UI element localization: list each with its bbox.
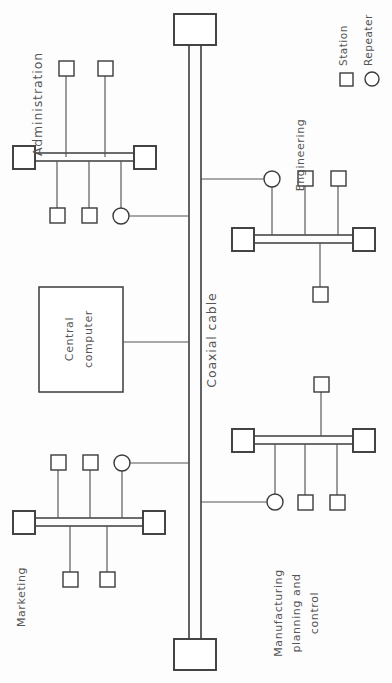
engineering-bus-terminator-right xyxy=(353,228,375,251)
central-computer-label-line-1: Central xyxy=(63,317,76,361)
network-diagram-canvas: Coaxial cable Central computer xyxy=(0,0,392,683)
engineering-repeater xyxy=(264,171,280,187)
marketing-repeater xyxy=(114,455,130,471)
marketing-bus-terminator-left xyxy=(13,511,35,534)
administration-station-above-1 xyxy=(59,61,74,76)
engineering-label: Engineering xyxy=(294,119,307,192)
manufacturing-station-below-2 xyxy=(330,495,345,510)
engineering-bus-terminator-left xyxy=(232,228,254,251)
manufacturing-station-below-1 xyxy=(298,495,313,510)
backbone-terminator-top xyxy=(174,14,216,45)
legend-repeater-icon xyxy=(365,72,379,86)
segment-engineering: Engineering xyxy=(201,119,375,302)
segment-manufacturing: Manufacturing planning and control xyxy=(201,377,375,657)
manufacturing-label-line-3: control xyxy=(308,592,321,634)
central-computer: Central computer xyxy=(39,287,189,392)
marketing-bus-terminator-right xyxy=(143,511,165,534)
legend-station-icon xyxy=(340,73,353,86)
administration-label: Administration xyxy=(30,52,45,156)
administration-station-below-1 xyxy=(50,208,65,223)
marketing-station-below-2 xyxy=(100,572,115,587)
manufacturing-bus-terminator-right xyxy=(353,429,375,452)
legend: Station Repeater xyxy=(337,14,379,86)
administration-bus-terminator-right xyxy=(134,146,156,169)
central-computer-label-line-2: computer xyxy=(82,310,95,368)
administration-station-below-2 xyxy=(82,208,97,223)
marketing-station-below-1 xyxy=(63,572,78,587)
segment-administration: Administration xyxy=(13,52,189,224)
engineering-station-above-2 xyxy=(331,171,346,186)
administration-repeater xyxy=(113,208,129,224)
marketing-station-above-1 xyxy=(51,455,66,470)
marketing-label: Marketing xyxy=(15,567,28,627)
manufacturing-label-line-1: Manufacturing xyxy=(272,569,285,656)
administration-station-above-2 xyxy=(98,61,113,76)
legend-station-label: Station xyxy=(337,25,349,66)
backbone-terminator-bottom xyxy=(174,639,216,670)
central-computer-box xyxy=(39,287,123,392)
segment-marketing: Marketing xyxy=(13,455,189,627)
marketing-station-above-2 xyxy=(83,455,98,470)
network-diagram: Coaxial cable Central computer xyxy=(0,0,392,683)
legend-repeater-label: Repeater xyxy=(362,14,374,66)
manufacturing-bus-terminator-left xyxy=(232,429,254,452)
coaxial-cable-label: Coaxial cable xyxy=(204,292,219,387)
manufacturing-repeater xyxy=(267,494,283,510)
manufacturing-station-above-1 xyxy=(314,377,329,392)
manufacturing-label-line-2: planning and xyxy=(290,573,303,652)
engineering-station-below-1 xyxy=(313,287,328,302)
